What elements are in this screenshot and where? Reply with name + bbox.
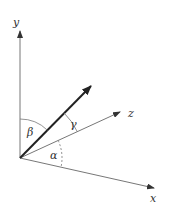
z-axis-label: z [127, 107, 134, 120]
direction-angles-diagram: y z x β γ α [0, 0, 171, 209]
alpha-arc [58, 141, 62, 168]
x-axis-label: x [150, 192, 157, 205]
direction-vector [20, 86, 91, 158]
x-axis [20, 158, 154, 188]
gamma-label: γ [70, 118, 77, 131]
beta-arc [20, 119, 47, 130]
alpha-label: α [50, 149, 58, 162]
beta-label: β [26, 126, 33, 139]
y-axis-label: y [12, 16, 20, 29]
